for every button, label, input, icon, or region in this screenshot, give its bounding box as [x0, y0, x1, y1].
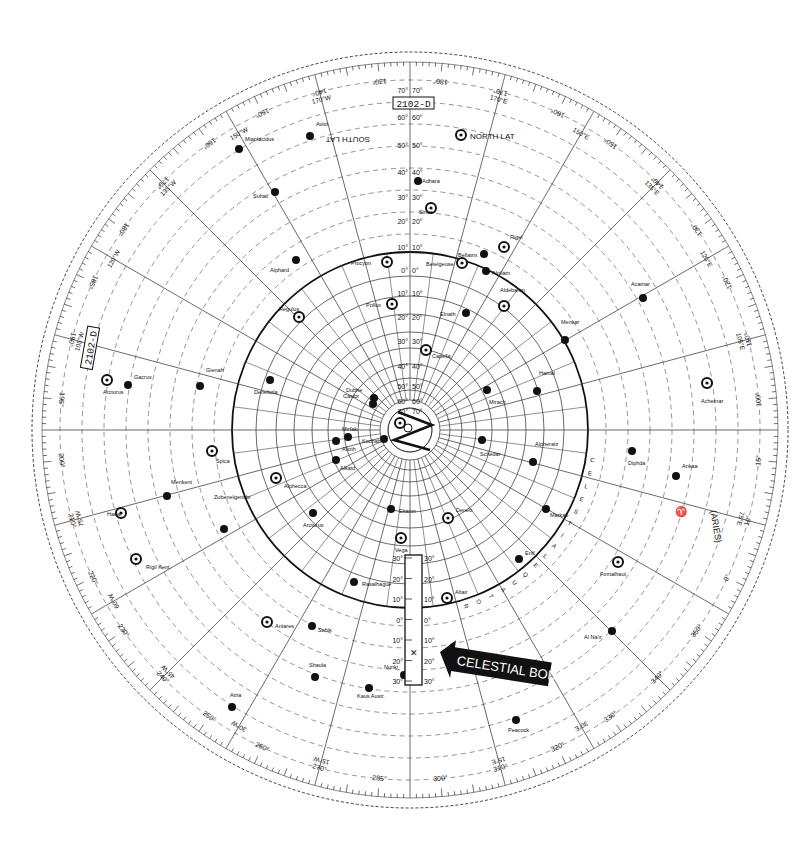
svg-text:Alphecca: Alphecca	[284, 483, 308, 489]
svg-text:E: E	[579, 496, 585, 503]
svg-text:10°: 10°	[397, 244, 408, 251]
star-adhara: Adhara	[414, 177, 441, 185]
svg-text:(ARIES): (ARIES)	[708, 509, 724, 543]
svg-text:Eltanin: Eltanin	[399, 508, 416, 514]
svg-text:Rigel: Rigel	[510, 234, 523, 240]
south-lat-label: SOUTH LAT	[326, 135, 370, 144]
star-vega: Vega	[395, 533, 408, 553]
svg-text:Elnath: Elnath	[440, 311, 456, 317]
star-alpheratz: Alpheratz	[529, 441, 558, 466]
svg-text:120°E: 120°E	[699, 249, 714, 268]
svg-text:Mirfak: Mirfak	[342, 426, 357, 432]
svg-text:50°: 50°	[397, 383, 408, 390]
svg-text:R: R	[462, 603, 469, 610]
svg-text:Menkent: Menkent	[171, 479, 193, 485]
svg-text:E: E	[587, 470, 592, 477]
svg-text:15°: 15°	[754, 455, 762, 466]
star-arcturus: Arcturus	[102, 375, 124, 395]
declination-slider[interactable]: 30°30°20°20°10°10°0°0°10°10°20°20°30°30°…	[392, 555, 434, 685]
star-alphecca: Alphecca	[271, 473, 308, 489]
svg-text:40°: 40°	[397, 363, 408, 370]
svg-text:C: C	[590, 457, 596, 464]
svg-text:330°: 330°	[603, 709, 619, 723]
star-rigil-kent-: Rigil Kent.	[131, 554, 172, 570]
star-al-na-ir: Al Na'ir	[584, 627, 616, 640]
star-procyon: Procyon	[351, 257, 392, 267]
svg-text:Castor: Castor	[343, 393, 359, 399]
star-rigel: Rigel	[499, 234, 523, 252]
star-sabik: Sabik	[308, 622, 332, 633]
svg-text:Arcturus: Arcturus	[303, 522, 324, 528]
svg-text:Gienah: Gienah	[206, 367, 224, 373]
svg-text:30°: 30°	[392, 555, 403, 562]
svg-text:Shaula: Shaula	[309, 662, 327, 668]
svg-text:T: T	[488, 593, 495, 599]
svg-text:Regulus: Regulus	[279, 306, 299, 312]
star-antares: Antares	[262, 617, 294, 629]
svg-text:Kochab: Kochab	[362, 438, 381, 444]
svg-text:230°: 230°	[117, 623, 131, 639]
svg-text:Enif: Enif	[525, 550, 535, 556]
aries-symbol-icon: ♈	[675, 505, 687, 518]
svg-text:10°: 10°	[392, 637, 403, 644]
svg-text:Alkaid: Alkaid	[340, 465, 355, 471]
star-menkar: Menkar	[561, 319, 580, 344]
svg-text:130°: 130°	[689, 221, 703, 237]
svg-text:40°: 40°	[412, 363, 423, 370]
star-ankaa: Ankaa	[672, 463, 699, 480]
svg-text:Menkar: Menkar	[561, 319, 580, 325]
svg-text:L: L	[542, 553, 549, 560]
star-schedar: Schedar	[478, 436, 501, 457]
svg-text:180°: 180°	[433, 78, 448, 86]
svg-text:Hamal: Hamal	[539, 370, 555, 376]
svg-text:30°: 30°	[392, 678, 403, 685]
svg-text:Al Na'ir: Al Na'ir	[584, 634, 602, 640]
title-top: 2102-D	[396, 99, 431, 110]
svg-text:S: S	[573, 508, 579, 515]
svg-text:70°: 70°	[412, 87, 423, 94]
svg-text:260°: 260°	[254, 741, 270, 754]
svg-text:180°: 180°	[117, 222, 131, 238]
svg-text:20°: 20°	[412, 218, 423, 225]
svg-text:185°: 185°	[87, 274, 100, 290]
svg-text:20°: 20°	[412, 314, 423, 321]
star-sirius: Sirius	[419, 203, 436, 215]
svg-text:Markab: Markab	[550, 512, 568, 518]
aries-label: (ARIES)	[708, 509, 724, 543]
svg-text:U: U	[511, 579, 518, 586]
svg-text:30°: 30°	[424, 555, 435, 562]
svg-text:200°: 200°	[58, 453, 66, 468]
svg-text:Atria: Atria	[230, 692, 242, 698]
star-gacrux: Gacrux	[124, 374, 152, 389]
svg-text:30°W: 30°W	[229, 719, 247, 733]
svg-text:Mirach: Mirach	[489, 399, 506, 405]
svg-text:0°: 0°	[401, 267, 408, 274]
svg-text:160°: 160°	[201, 137, 217, 151]
svg-text:20°: 20°	[424, 658, 435, 665]
svg-text:30°: 30°	[397, 194, 408, 201]
star-acamar: Acamar	[631, 281, 650, 302]
star-spica: Spica	[207, 446, 231, 464]
svg-text:150°E: 150°E	[572, 126, 591, 141]
svg-text:Diphda: Diphda	[628, 460, 646, 466]
svg-text:300°: 300°	[433, 774, 448, 782]
slider-pointer-icon: ✕	[410, 648, 418, 658]
svg-text:10°: 10°	[397, 290, 408, 297]
star-rasalhague: Rasalhague	[350, 578, 391, 587]
svg-text:L: L	[584, 483, 590, 490]
svg-text:Suhail: Suhail	[253, 193, 268, 199]
svg-text:Antares: Antares	[275, 623, 294, 629]
star-gienah: Gienah	[196, 367, 224, 390]
svg-text:10°: 10°	[424, 637, 435, 644]
svg-text:20°: 20°	[392, 658, 403, 665]
svg-text:Miaplacidus: Miaplacidus	[245, 136, 274, 142]
svg-text:220°: 220°	[87, 570, 100, 586]
svg-text:Denebola: Denebola	[254, 389, 278, 395]
star-alnilam: Alnilam	[482, 267, 510, 276]
svg-text:350°: 350°	[689, 622, 703, 638]
svg-text:60°: 60°	[397, 398, 408, 405]
svg-text:30°: 30°	[412, 194, 423, 201]
star-finder-disc: 180°170°160°150°140°130°120°110°100°15°1…	[32, 52, 788, 808]
star-markab: Markab	[542, 505, 568, 518]
svg-text:Kaus Austr.: Kaus Austr.	[357, 693, 385, 699]
